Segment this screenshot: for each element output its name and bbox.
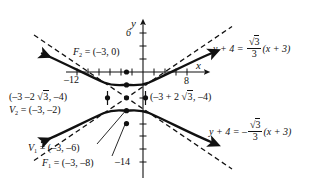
asymptote-positive-equation: y + 4 = √33(x + 3) bbox=[213, 37, 290, 59]
x-tick-label-8: 8 bbox=[184, 76, 189, 86]
y-tick-label-6: 6 bbox=[126, 28, 131, 38]
focus-1-label: F1 = (–3, –8) bbox=[42, 158, 94, 169]
leader-to-F1 bbox=[112, 125, 125, 157]
sqrt3-over-3-fraction: √33 bbox=[248, 120, 263, 142]
leader-lines bbox=[97, 112, 125, 156]
x-tick-label-minus12: –12 bbox=[64, 75, 79, 85]
asymptote-negative-sign: – bbox=[242, 126, 247, 137]
vertex-2-label: V2 = (–3, –2) bbox=[9, 105, 61, 116]
focus-2-coordinates: = (–3, 0) bbox=[82, 46, 119, 57]
numerator-radicand: 3 bbox=[254, 35, 259, 47]
point-center bbox=[124, 95, 129, 100]
numerator-radicand: 3 bbox=[255, 118, 260, 130]
asymptote-negative-rhs: (x + 3) bbox=[263, 126, 291, 137]
right-endpoint-suffix: , –4) bbox=[193, 91, 211, 102]
left-endpoint-label: (–3 –2 √3, –4) bbox=[9, 92, 67, 102]
fraction-numerator: √3 bbox=[248, 120, 263, 132]
sqrt-icon: √3 bbox=[181, 90, 193, 102]
left-endpoint-prefix: (–3 –2 bbox=[9, 91, 37, 102]
focus-1-coordinates: = (–3, –8) bbox=[51, 157, 93, 168]
point-F2 bbox=[124, 69, 129, 74]
leader-to-V1 bbox=[97, 112, 125, 144]
sqrt3-over-3-fraction: √33 bbox=[247, 37, 262, 59]
vertex-1-label: V1 = (–3, –6) bbox=[28, 143, 80, 154]
focus-2-label: F2 = (–3, 0) bbox=[73, 47, 120, 58]
vertex-2-coordinates: = (–3, –2) bbox=[18, 104, 60, 115]
sqrt-icon: √3 bbox=[37, 90, 49, 102]
asymptote-negative-equation: y + 4 = –√33(x + 3) bbox=[209, 120, 291, 142]
fraction-denominator: 3 bbox=[247, 49, 262, 60]
point-V2 bbox=[124, 82, 129, 87]
hyperbola-figure: y x 6 –14 –12 8 F2 = (–3, 0) (–3 –2 √3, … bbox=[0, 0, 324, 185]
fraction-denominator: 3 bbox=[248, 132, 263, 143]
y-axis-label: y bbox=[131, 18, 136, 29]
x-axis-label: x bbox=[196, 60, 201, 71]
asymptote-positive-rhs: (x + 3) bbox=[262, 43, 290, 54]
vertex-1-coordinates: = (–3, –6) bbox=[37, 142, 79, 153]
point-V1 bbox=[124, 108, 129, 113]
right-endpoint-prefix: (–3 + 2 bbox=[150, 91, 181, 102]
asymptote-negative-lhs: y + 4 = bbox=[209, 126, 242, 137]
y-tick-label-minus14: –14 bbox=[115, 157, 130, 167]
left-endpoint-suffix: , –4) bbox=[49, 91, 67, 102]
asymptote-positive-lhs: y + 4 = bbox=[213, 43, 246, 54]
right-endpoint-label: (–3 + 2 √3, –4) bbox=[150, 92, 211, 102]
fraction-numerator: √3 bbox=[247, 37, 262, 49]
